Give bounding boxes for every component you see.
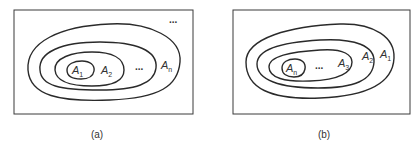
set-curve-an — [28, 24, 180, 101]
ellipsis-middle-b: ... — [315, 60, 324, 71]
label-a2: A2 — [100, 64, 112, 78]
label-a1: A1 — [71, 64, 83, 78]
label-b3: A3 — [337, 57, 349, 71]
label-an: An — [160, 59, 172, 73]
caption-a: (a) — [91, 129, 103, 140]
panel-b: An ... A3 A2 A1 (b) — [233, 10, 410, 140]
label-b1: A1 — [379, 48, 391, 62]
label-bn: An — [285, 62, 297, 76]
caption-b: (b) — [318, 129, 330, 140]
set-curve-a2 — [55, 52, 124, 86]
ellipsis-corner-a: ... — [169, 14, 178, 25]
panel-a: A1 A2 ... An ... (a) — [14, 10, 193, 140]
ellipsis-middle-a: ... — [135, 61, 144, 72]
nested-sets-figure: A1 A2 ... An ... (a) An ... A3 A2 A1 (b) — [0, 0, 420, 149]
